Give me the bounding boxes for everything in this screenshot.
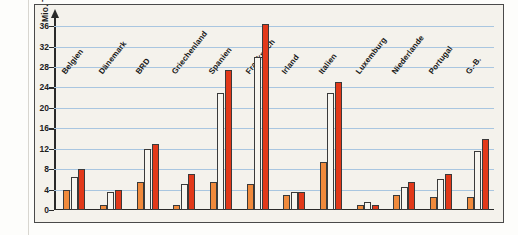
y-axis-labels: 04812162024283236 — [32, 16, 49, 210]
bar — [144, 149, 151, 210]
bar — [210, 182, 217, 210]
x-axis-category-label: Luxemburg — [353, 35, 387, 76]
bar — [283, 195, 290, 210]
bar — [430, 197, 437, 210]
y-axis-tick-label: 16 — [40, 124, 49, 132]
bar — [254, 57, 261, 210]
bar — [401, 187, 408, 210]
x-axis-category-label: G.-B. — [463, 55, 482, 76]
x-axis-category-label: Niederlande — [390, 33, 426, 76]
bar — [262, 24, 269, 210]
bar — [393, 195, 400, 210]
y-axis-tick-label: 24 — [40, 83, 49, 91]
y-axis-tick — [49, 108, 54, 109]
bar — [357, 205, 364, 210]
bar — [327, 93, 334, 210]
y-axis-tick — [49, 128, 54, 129]
bar — [408, 182, 415, 210]
y-axis-tick-label: 32 — [40, 43, 49, 51]
bar — [291, 192, 298, 210]
x-axis-category-labels: BelgienDänemarkBRDGriechenlandSpanienFra… — [54, 16, 494, 76]
bar — [71, 177, 78, 210]
bar — [100, 205, 107, 210]
bar — [115, 190, 122, 210]
bar — [482, 139, 489, 210]
bar — [474, 151, 481, 210]
x-axis-category-label: Portugal — [427, 44, 455, 76]
bar — [217, 93, 224, 210]
y-axis-tick-label: 36 — [40, 22, 49, 30]
bar — [107, 192, 114, 210]
bar — [372, 205, 379, 210]
bar — [467, 197, 474, 210]
bar — [173, 205, 180, 210]
bar — [364, 202, 371, 210]
x-axis-category-label: Griechenland — [170, 29, 209, 76]
bar — [152, 144, 159, 210]
bar — [445, 174, 452, 210]
y-axis-tick — [49, 149, 54, 150]
x-axis-category-label: BRD — [133, 57, 151, 76]
y-axis-tick — [49, 190, 54, 191]
y-axis-tick — [49, 87, 54, 88]
x-axis-category-label: Belgien — [60, 47, 85, 76]
bar — [137, 182, 144, 210]
bar — [247, 184, 254, 210]
y-axis-tick-label: 12 — [40, 145, 49, 153]
y-axis-tick-label: 28 — [40, 63, 49, 71]
bar — [188, 174, 195, 210]
y-axis-tick — [49, 210, 54, 211]
x-axis-category-label: Dänemark — [97, 39, 128, 76]
bar — [320, 162, 327, 211]
y-axis-tick — [49, 169, 54, 170]
bar — [335, 82, 342, 210]
y-axis-tick-label: 20 — [40, 104, 49, 112]
bar — [181, 184, 188, 210]
bar — [78, 169, 85, 210]
bar — [63, 190, 70, 210]
chart-page: A 04812162024283236 BelgienDänemarkBRDGr… — [0, 0, 518, 235]
x-axis-category-label: Irland — [280, 53, 301, 76]
bar — [437, 179, 444, 210]
x-axis-category-label: Italien — [317, 52, 339, 76]
page-edge-line — [28, 0, 29, 235]
bar — [225, 70, 232, 210]
y-axis-title: Mio. Touristen — [40, 0, 50, 22]
bar — [298, 192, 305, 210]
